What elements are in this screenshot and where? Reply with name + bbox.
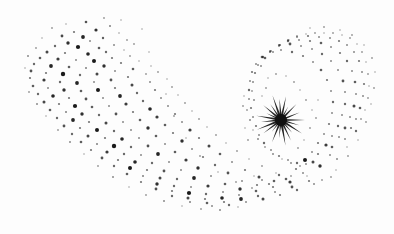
scatter-dot <box>163 170 166 173</box>
scatter-dot <box>305 99 307 101</box>
scatter-dot <box>118 32 120 34</box>
scatter-dot <box>85 67 87 69</box>
scatter-dot <box>138 60 140 62</box>
scatter-dot <box>105 51 107 53</box>
scatter-dot <box>254 72 256 74</box>
scatter-dot <box>236 150 238 152</box>
scatter-dot <box>33 63 35 65</box>
scatter-dot <box>103 17 105 19</box>
scatter-dot <box>29 77 31 79</box>
scatter-dot <box>257 138 259 140</box>
scatter-dot <box>338 40 340 42</box>
scatter-dot <box>63 125 66 128</box>
scatter-dot <box>235 181 237 183</box>
scatter-dot <box>290 162 292 164</box>
scatter-dot <box>328 123 330 125</box>
scatter-dot <box>145 194 147 196</box>
scatter-dot <box>97 165 99 167</box>
scatter-dot <box>231 161 233 163</box>
scatter-dot <box>311 151 313 153</box>
scatter-dot <box>64 52 66 54</box>
scatter-dot <box>257 195 259 197</box>
scatter-dot <box>239 197 243 201</box>
scatter-dot <box>148 51 150 53</box>
scatter-dot <box>281 158 283 160</box>
scatter-dot <box>171 86 173 88</box>
scatter-dot <box>124 102 127 105</box>
scatter-dot <box>309 40 311 42</box>
scatter-dot <box>251 90 253 92</box>
scatter-dot <box>215 134 217 136</box>
scatter-dot <box>151 162 153 164</box>
scatter-dot <box>217 171 219 173</box>
scatter-dot <box>291 51 293 53</box>
scatter-dot <box>142 175 144 177</box>
scatter-dot <box>165 93 167 95</box>
scatter-dot <box>346 146 348 148</box>
scatter-dot <box>56 57 59 60</box>
scatter-dot <box>155 182 158 185</box>
scatter-dot <box>227 172 230 175</box>
scatter-dot <box>374 71 376 73</box>
scatter-dot <box>128 166 132 170</box>
scatter-dot <box>189 201 191 203</box>
scatter-dot <box>45 115 47 117</box>
scatter-dot <box>150 65 152 67</box>
scatter-dot <box>303 158 307 162</box>
scatter-dot <box>368 85 370 87</box>
scatter-dot <box>267 77 269 79</box>
scatter-dot <box>252 81 254 83</box>
scatter-dot <box>69 141 71 143</box>
scatter-dot <box>92 59 96 63</box>
scatter-dot <box>120 62 122 64</box>
scatter-dot <box>321 53 323 55</box>
scatter-dot <box>80 112 83 115</box>
scatter-dot <box>349 116 351 118</box>
scatter-dot <box>141 28 143 30</box>
scatter-dot <box>275 73 277 75</box>
scatter-dot <box>86 52 90 56</box>
scatter-dot <box>112 176 114 178</box>
scatter-dot <box>61 72 65 76</box>
scatter-dot <box>71 118 75 122</box>
scatter-dot <box>191 110 193 112</box>
scatter-dot <box>329 37 331 39</box>
scatter-dot <box>181 205 183 207</box>
scatter-dot <box>79 74 81 76</box>
scatter-dot <box>115 113 118 116</box>
scatter-dot <box>139 119 142 122</box>
artwork-canvas <box>0 0 394 234</box>
scatter-dot <box>32 85 35 88</box>
scatter-dot <box>219 209 221 211</box>
scatter-dot <box>285 75 287 77</box>
scatter-dot <box>330 176 332 178</box>
scatter-dot <box>365 61 367 63</box>
scatter-dot <box>367 73 369 75</box>
scatter-dot <box>225 142 227 144</box>
scatter-dot <box>350 127 352 129</box>
scatter-dot <box>47 87 49 89</box>
scatter-dot <box>113 165 115 167</box>
scatter-dot <box>206 184 209 187</box>
scatter-dot <box>104 137 106 139</box>
scatter-dot <box>275 172 277 174</box>
scatter-dot <box>258 176 261 179</box>
scatter-dot <box>90 149 92 151</box>
scatter-dot <box>326 79 328 81</box>
scatter-dot <box>168 161 170 163</box>
scatter-dot <box>28 91 30 93</box>
scatter-dot <box>251 187 253 189</box>
scatter-dot <box>199 155 201 157</box>
scatter-dot <box>219 153 222 156</box>
scatter-dot <box>174 113 176 115</box>
scatter-dot <box>57 129 59 131</box>
scatter-dot <box>147 145 150 148</box>
scatter-dot <box>120 137 124 141</box>
scatter-dot <box>127 76 129 78</box>
scatter-dot <box>75 59 77 61</box>
scatter-dot <box>298 39 300 41</box>
scatter-dot <box>43 101 46 104</box>
scatter-dot <box>71 133 73 135</box>
scatter-dot <box>148 107 152 111</box>
scatter-dot <box>313 183 315 185</box>
